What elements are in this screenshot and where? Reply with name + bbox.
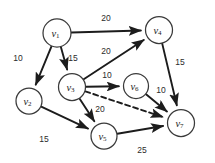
edge-weight-v1-v4: 20 [101, 13, 111, 23]
edge-weight-v1-v3: 15 [68, 53, 78, 63]
edge-weight-v6-v7: 10 [156, 85, 166, 95]
edge-v5-to-v7 [117, 126, 163, 134]
edge-weight-v4-v7: 15 [175, 57, 185, 67]
edge-v2-to-v5 [41, 107, 88, 129]
edge-weight-v2-v5: 15 [39, 134, 49, 144]
edge-v6-to-v7 [146, 94, 167, 111]
edge-weight-v1-v2: 10 [13, 53, 23, 63]
edge-v3-to-v5 [80, 99, 95, 121]
node-v3[interactable]: v3 [59, 74, 86, 101]
edge-v1-to-v3 [61, 47, 67, 69]
edge-v1-to-v4 [71, 31, 140, 33]
edge-weight-v5-v7: 25 [137, 145, 147, 155]
node-v1[interactable]: v1 [43, 19, 71, 47]
node-v2[interactable]: v2 [16, 88, 42, 114]
graph-diagram: 20101520102015101525 v1v2v3v4v5v6v7 [0, 0, 215, 163]
edge-weight-v3-v4: 20 [101, 46, 111, 56]
node-v4[interactable]: v4 [146, 17, 173, 44]
edge-weight-v3-v6: 10 [102, 70, 112, 80]
node-v5[interactable]: v5 [91, 123, 117, 149]
node-v7[interactable]: v7 [168, 110, 195, 137]
edge-weight-v3-v7: 20 [95, 104, 105, 114]
edge-v1-to-v2 [36, 46, 52, 84]
node-v6[interactable]: v6 [124, 74, 149, 99]
graph-canvas: 20101520102015101525 v1v2v3v4v5v6v7 [0, 0, 215, 163]
edge-v3-to-v6 [86, 86, 119, 87]
nodes-layer: v1v2v3v4v5v6v7 [16, 17, 195, 150]
edge-v4-to-v7 [162, 44, 177, 106]
